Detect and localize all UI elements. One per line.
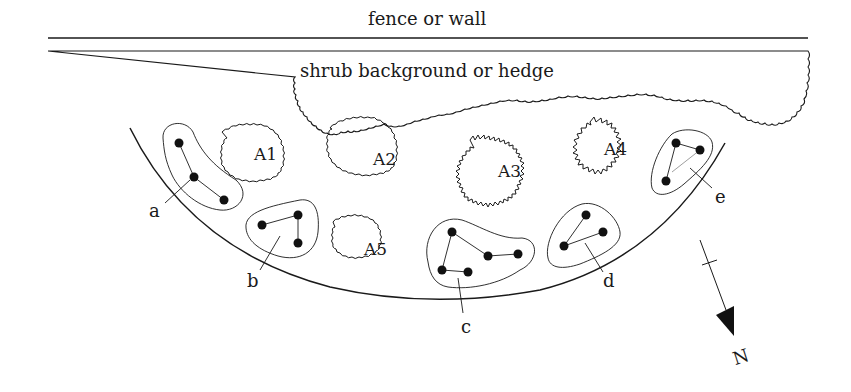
area-a4-label: A4 bbox=[604, 141, 627, 158]
group-d-leader bbox=[585, 243, 603, 272]
group-c-link bbox=[488, 254, 518, 256]
plant-dot bbox=[514, 250, 523, 259]
group-e-label: e bbox=[715, 188, 726, 206]
plant-dot bbox=[175, 139, 184, 148]
group-c-link bbox=[452, 232, 488, 256]
bed-arc bbox=[130, 128, 725, 299]
plant-dot bbox=[294, 239, 303, 248]
plant-dot bbox=[448, 228, 457, 237]
group-a-leader bbox=[165, 180, 190, 203]
group-b-outline bbox=[246, 200, 318, 258]
plant-dot bbox=[582, 211, 591, 220]
group-a-link bbox=[179, 143, 194, 177]
plant-dot bbox=[190, 173, 199, 182]
group-a-outline bbox=[163, 123, 243, 210]
group-b-label: b bbox=[247, 272, 259, 290]
plant-dot bbox=[438, 266, 447, 275]
plant-dot bbox=[294, 211, 303, 220]
group-d-link bbox=[564, 232, 603, 246]
group-a-link bbox=[194, 177, 224, 200]
plant-dot bbox=[464, 268, 473, 277]
area-a3-label: A3 bbox=[498, 163, 521, 180]
plant-dot bbox=[484, 252, 493, 261]
north-arrow-icon bbox=[700, 240, 734, 336]
plant-dot bbox=[599, 228, 608, 237]
hedge-label: shrub background or hedge bbox=[300, 62, 554, 80]
plant-dot bbox=[696, 146, 705, 155]
plant-dot bbox=[258, 221, 267, 230]
area-a2-label: A2 bbox=[373, 151, 396, 168]
group-e-link bbox=[672, 150, 700, 172]
group-e-outline bbox=[651, 130, 712, 195]
area-a5-label: A5 bbox=[364, 241, 387, 258]
group-d-label: d bbox=[603, 272, 615, 290]
plant-dot bbox=[662, 177, 671, 186]
plant-dot bbox=[560, 242, 569, 251]
group-e-link bbox=[666, 143, 676, 181]
group-c-link bbox=[442, 232, 452, 270]
group-c-label: c bbox=[461, 318, 471, 336]
group-c-leader bbox=[458, 278, 463, 313]
area-a1-label: A1 bbox=[254, 146, 277, 163]
plant-dot bbox=[672, 139, 681, 148]
plant-dot bbox=[220, 196, 229, 205]
group-a-label: a bbox=[149, 202, 160, 220]
group-b-link bbox=[262, 215, 298, 225]
group-d-link bbox=[564, 215, 586, 246]
fence-label: fence or wall bbox=[368, 10, 486, 28]
